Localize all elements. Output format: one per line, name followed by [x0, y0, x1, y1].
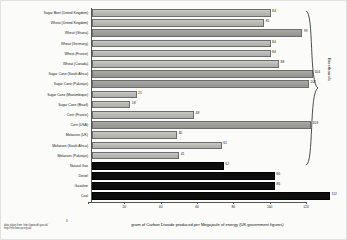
bar-track: 40: [91, 130, 347, 140]
bar-track: 104: [91, 69, 347, 79]
category-label: Wheat (Canada): [0, 62, 91, 66]
chart-plot-area: Sugar Beet (United Kingdom)84Wheat (Unit…: [0, 8, 347, 202]
bar-value-label: 88: [281, 61, 285, 65]
chart-row: Molasses (South Africa)61: [0, 140, 347, 150]
chart-row: Sugar Cane (Mozambique)21: [0, 90, 347, 100]
bar-value-label: 41: [181, 153, 185, 157]
chart-row: Sugar Cane (South Africa)104: [0, 69, 347, 79]
category-label: Natural Gas: [0, 164, 91, 168]
chart-row: Diesel86: [0, 171, 347, 181]
bar-value-label: 81: [266, 20, 270, 24]
x-tick-label: 40: [159, 205, 163, 209]
x-tick: [161, 202, 162, 204]
bar-track: 84: [91, 8, 347, 18]
chart-row: Wheat (Ghana)99: [0, 28, 347, 38]
chart-row: Sugar Cane (Brazil)18: [0, 100, 347, 110]
chart-row: Wheat (France)84: [0, 49, 347, 59]
bar-biofuel: [92, 19, 264, 27]
category-label: Sugar Cane (South Africa): [0, 72, 91, 76]
x-tick-label: 80: [231, 205, 235, 209]
category-label: Wheat (France): [0, 52, 91, 56]
bar-biofuel: [92, 50, 271, 58]
category-label: Molasses (Pakistan): [0, 154, 91, 158]
bar-biofuel: [92, 40, 271, 48]
source-footnote: data taken from: http://www.dft.gov.uk/ …: [4, 224, 48, 231]
bar-value-label: 103: [312, 122, 318, 126]
x-tick: [233, 202, 234, 204]
chart-row: Sugar Beet (United Kingdom)84: [0, 8, 347, 18]
bar-value-label: 102: [310, 81, 316, 85]
category-label: Gasoline: [0, 184, 91, 188]
bar-value-label: 86: [276, 183, 280, 187]
bar-track: 21: [91, 90, 347, 100]
bar-value-label: 40: [178, 132, 182, 136]
category-label: Diesel: [0, 174, 91, 178]
bar-biofuel: [92, 111, 194, 119]
bar-biofuel: [92, 91, 137, 99]
bar-track: 86: [91, 171, 347, 181]
bar-track: 103: [91, 120, 347, 130]
bar-value-label: 61: [223, 142, 227, 146]
bar-biofuel: [92, 152, 179, 160]
category-label: Coal: [0, 194, 91, 198]
x-tick-label: 120: [303, 205, 309, 209]
chart-row: Wheat (Canada)88: [0, 59, 347, 69]
category-label: Sugar Cane (Pakistan): [0, 82, 91, 86]
category-label: Sugar Beet (United Kingdom): [0, 11, 91, 15]
bar-value-label: 84: [272, 10, 276, 14]
bar-track: 81: [91, 18, 347, 28]
bar-biofuel: [92, 142, 222, 150]
bar-fossil: [92, 162, 224, 170]
bar-biofuel: [92, 101, 130, 109]
bar-track: 48: [91, 110, 347, 120]
bar-biofuel: [92, 70, 313, 78]
bar-track: 61: [91, 140, 347, 150]
chart-row: Coal112: [0, 191, 347, 201]
axis-origin-mark: 0: [66, 219, 68, 223]
chart-row: Natural Gas62: [0, 161, 347, 171]
x-tick: [197, 202, 198, 204]
chart-row: Corn (USA)103: [0, 120, 347, 130]
x-tick-label: 20: [122, 205, 126, 209]
bar-biofuel: [92, 60, 279, 68]
chart-row: Molasses (UK)40: [0, 130, 347, 140]
bar-biofuel: [92, 131, 177, 139]
bar-track: 62: [91, 161, 347, 171]
x-axis-ticks: 20406080100120: [88, 202, 306, 216]
chart-row: Gasoline86: [0, 181, 347, 191]
category-label: Sugar Cane (Mozambique): [0, 93, 91, 97]
category-label: Wheat (Germany): [0, 42, 91, 46]
category-label: Molasses (South Africa): [0, 144, 91, 148]
bar-biofuel: [92, 80, 309, 88]
bar-track: 84: [91, 49, 347, 59]
category-label: Molasses (UK): [0, 133, 91, 137]
chart-row: Wheat (Germany)84: [0, 39, 347, 49]
footnote-line-2: http://rtfo.lowcvp.org.uk/: [4, 227, 48, 230]
bar-track: 112: [91, 191, 347, 201]
bar-value-label: 48: [196, 112, 200, 116]
bar-track: 84: [91, 39, 347, 49]
bar-value-label: 112: [332, 193, 337, 197]
chart-row: Corn (France)48: [0, 110, 347, 120]
bar-biofuel: [92, 121, 311, 129]
bar-value-label: 84: [272, 51, 276, 55]
bar-biofuel: [92, 9, 271, 17]
category-label: Corn (France): [0, 113, 91, 117]
co2-bar-chart: Sugar Beet (United Kingdom)84Wheat (Unit…: [0, 0, 347, 240]
chart-row: Wheat (United Kingdom)81: [0, 18, 347, 28]
bar-value-label: 99: [304, 30, 308, 34]
bar-fossil: [92, 192, 330, 200]
bar-value-label: 21: [138, 92, 142, 96]
bioethanol-group-label: Bioethanols: [327, 58, 332, 81]
bar-track: 99: [91, 28, 347, 38]
x-tick: [124, 202, 125, 204]
category-label: Corn (USA): [0, 123, 91, 127]
bar-value-label: 84: [272, 41, 276, 45]
bar-value-label: 62: [225, 163, 229, 167]
bar-track: 41: [91, 151, 347, 161]
bar-track: 102: [91, 79, 347, 89]
x-tick: [306, 202, 307, 204]
bar-biofuel: [92, 29, 302, 37]
bar-fossil: [92, 172, 275, 180]
bar-value-label: 104: [314, 71, 320, 75]
